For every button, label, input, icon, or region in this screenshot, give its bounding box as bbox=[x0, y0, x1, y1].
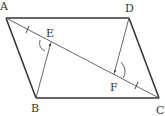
angle-mark-e bbox=[40, 40, 45, 51]
label-e: E bbox=[46, 27, 54, 40]
segment-dc bbox=[129, 18, 159, 98]
label-d: D bbox=[125, 2, 134, 15]
label-a: A bbox=[0, 0, 9, 13]
segment-df bbox=[114, 18, 129, 74]
angle-mark-f bbox=[121, 62, 125, 78]
label-f: F bbox=[110, 81, 118, 94]
label-b: B bbox=[31, 102, 39, 115]
angle-dot-f bbox=[114, 70, 116, 72]
label-c: C bbox=[156, 104, 164, 116]
segment-ab bbox=[6, 18, 36, 98]
angle-dot-e bbox=[49, 44, 51, 46]
parallelogram-diagram: A D B C E F bbox=[0, 0, 165, 116]
